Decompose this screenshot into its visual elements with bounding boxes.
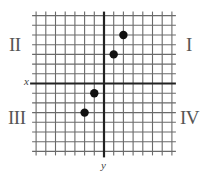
quadrant-label-IV: IV [180,108,199,127]
coordinate-plane [0,0,204,179]
data-point [90,89,98,97]
data-point [110,50,118,58]
quadrant-label-III: III [8,108,25,127]
y-axis-label: y [101,160,106,171]
data-point [80,108,88,116]
data-point [119,31,127,39]
x-axis-label: x [24,76,29,87]
quadrant-label-II: II [9,35,21,54]
quadrant-label-I: I [186,35,192,54]
axes [30,12,176,158]
